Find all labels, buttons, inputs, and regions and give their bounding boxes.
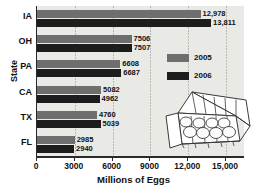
gridline: [75, 6, 76, 157]
bar-OH-2005[interactable]: [37, 35, 132, 43]
egg-carton-illustration: [162, 86, 254, 158]
egg-production-bar-chart: State 12,97813,8117506750766086687508249…: [0, 0, 254, 189]
bar-value-CA-2006: 4962: [102, 95, 119, 103]
bar-value-IA-2005: 12,978: [203, 10, 226, 18]
y-axis-label-TX: TX: [0, 112, 32, 122]
x-tick-label-15,000: 15,000: [212, 161, 238, 171]
y-axis-label-IA: IA: [0, 11, 32, 21]
legend-swatch-2006: [167, 72, 189, 80]
legend-swatch-2005: [167, 54, 189, 62]
bar-PA-2005[interactable]: [37, 60, 120, 68]
y-axis-label-OH: OH: [0, 36, 32, 46]
x-tick-label-12,000: 12,000: [174, 161, 200, 171]
bar-CA-2005[interactable]: [37, 86, 101, 94]
y-axis-label-CA: CA: [0, 87, 32, 97]
y-axis-label-PA: PA: [0, 61, 32, 71]
bar-value-FL-2005: 2985: [77, 136, 94, 144]
x-axis-title: Millions of Eggs: [36, 174, 231, 185]
bar-PA-2006[interactable]: [37, 69, 121, 77]
bar-value-CA-2005: 5082: [103, 86, 120, 94]
bar-value-TX-2005: 4760: [99, 111, 116, 119]
x-tick-label-9000: 9000: [140, 161, 159, 171]
x-tick-label-3000: 3000: [64, 161, 83, 171]
bar-value-OH-2005: 7506: [134, 35, 151, 43]
bar-TX-2006[interactable]: [37, 120, 101, 128]
x-tick-label-0: 0: [34, 161, 39, 171]
bar-CA-2006[interactable]: [37, 95, 100, 103]
bar-value-PA-2006: 6687: [123, 69, 140, 77]
bar-value-TX-2006: 5039: [103, 120, 120, 128]
bar-FL-2005[interactable]: [37, 136, 75, 144]
bar-IA-2005[interactable]: [37, 10, 201, 18]
bar-value-IA-2006: 13,811: [213, 19, 236, 27]
gridline: [150, 6, 151, 157]
bar-IA-2006[interactable]: [37, 19, 211, 27]
bar-FL-2006[interactable]: [37, 145, 74, 153]
gridline: [113, 6, 114, 157]
bar-value-PA-2005: 6608: [122, 60, 139, 68]
legend-label-2006: 2006: [194, 71, 212, 81]
y-axis-label-FL: FL: [0, 137, 32, 147]
legend-label-2005: 2005: [194, 53, 212, 63]
bar-value-FL-2006: 2940: [76, 145, 93, 153]
bar-TX-2005[interactable]: [37, 111, 97, 119]
bar-OH-2006[interactable]: [37, 44, 132, 52]
bar-value-OH-2006: 7507: [134, 44, 151, 52]
x-tick-label-6000: 6000: [102, 161, 121, 171]
